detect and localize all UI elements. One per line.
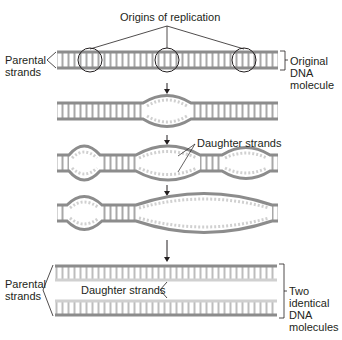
two-identical-dna-molecules-label: Two identical DNA molecules — [289, 285, 339, 333]
replication-bubble-stage — [57, 96, 278, 127]
arrow-down-icon — [164, 185, 170, 196]
original-dna-molecule-label: Original DNA molecule — [290, 55, 334, 91]
label-line: strands — [5, 290, 46, 302]
parental-strands-label-top: Parental strands — [5, 54, 46, 78]
label-line: DNA — [290, 67, 334, 79]
three-bubbles-stage — [57, 144, 278, 180]
label-line: molecules — [289, 321, 339, 333]
label-line: Original — [290, 55, 334, 67]
daughter-strands-label-bottom: Daughter strands — [81, 284, 165, 296]
label-line: molecule — [290, 79, 334, 91]
arrow-down-icon — [164, 240, 170, 262]
daughter-strands-label-middle: Daughter strands — [197, 137, 281, 149]
label-line: strands — [5, 66, 46, 78]
arrow-down-icon — [164, 135, 170, 145]
label-line: Parental — [5, 278, 46, 290]
label-line: Parental — [5, 54, 46, 66]
arrow-down-icon — [164, 83, 170, 94]
original-dna-molecule — [47, 26, 288, 72]
label-line: identical — [289, 297, 339, 309]
merged-bubbles-stage — [57, 194, 278, 233]
label-line: DNA — [289, 309, 339, 321]
parental-strands-label-bottom: Parental strands — [5, 278, 46, 302]
origins-of-replication-label: Origins of replication — [120, 11, 220, 23]
label-line: Two — [289, 285, 339, 297]
